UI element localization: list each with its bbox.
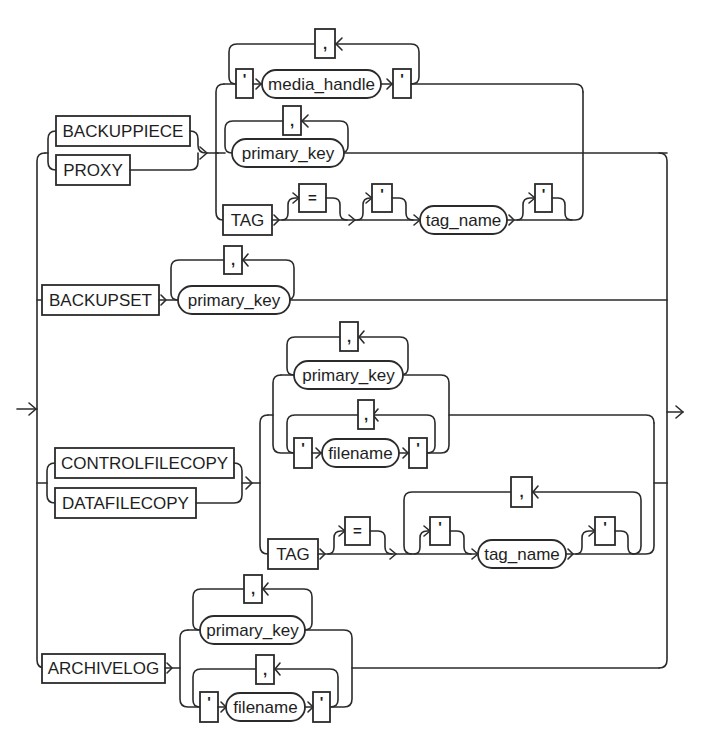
filename-label: filename — [233, 698, 297, 717]
comma-label: , — [323, 35, 327, 52]
optional-rail — [370, 531, 392, 554]
rail — [48, 153, 56, 170]
equals-label: = — [353, 522, 362, 539]
keyword-proxy-label: PROXY — [63, 161, 123, 180]
optional-rail — [517, 198, 535, 220]
tag-name-label: tag_name — [484, 545, 560, 564]
branch-backupset: BACKUPSET , primary_key — [37, 246, 667, 315]
left-rail — [37, 153, 45, 668]
optional-rail — [552, 198, 572, 220]
optional-rail — [414, 531, 430, 554]
rail — [411, 84, 583, 92]
quote-label: ' — [207, 693, 211, 710]
quote-label: ' — [542, 185, 546, 202]
rail — [45, 131, 56, 153]
rail — [180, 630, 200, 707]
optional-rail — [328, 531, 345, 554]
comma-label: , — [263, 661, 267, 678]
equals-label: = — [308, 189, 317, 206]
optional-rail — [326, 198, 347, 220]
rail — [47, 463, 55, 503]
quote-label: ' — [438, 518, 442, 535]
keyword-backupset-label: BACKUPSET — [49, 291, 152, 310]
syntax-diagram: BACKUPPIECE PROXY , ' media_handle ' , — [0, 0, 701, 736]
comma-label: , — [231, 251, 235, 268]
quote-label: ' — [416, 439, 420, 456]
optional-rail — [450, 531, 471, 554]
rail — [260, 415, 268, 554]
optional-rail — [357, 198, 372, 220]
tag-name-label: tag_name — [426, 211, 502, 230]
keyword-datafilecopy-label: DATAFILECOPY — [62, 494, 189, 513]
comma-label: , — [290, 112, 294, 129]
quote-label: ' — [603, 518, 607, 535]
comma-label: , — [347, 328, 351, 345]
rail — [130, 153, 198, 170]
rail — [273, 375, 294, 453]
branch-controlfilecopy-datafilecopy: CONTROLFILECOPY DATAFILECOPY , primary_k… — [37, 322, 667, 569]
optional-rail — [576, 531, 595, 554]
media-handle-label: media_handle — [268, 75, 375, 94]
branch-backuppiece-proxy: BACKUPPIECE PROXY , ' media_handle ' , — [45, 29, 667, 235]
primary-key-label: primary_key — [206, 621, 299, 640]
keyword-tag-label: TAG — [276, 545, 310, 564]
primary-key-label: primary_key — [302, 366, 395, 385]
main-rails — [17, 153, 683, 668]
rail — [449, 415, 654, 423]
optional-rail — [282, 198, 299, 220]
filename-label: filename — [328, 444, 392, 463]
branch-archivelog: ARCHIVELOG , primary_key , ' filename ' — [42, 575, 659, 722]
rail — [216, 84, 224, 220]
optional-rail — [392, 198, 413, 220]
keyword-archivelog-label: ARCHIVELOG — [48, 659, 159, 678]
quote-label: ' — [301, 439, 305, 456]
right-rail — [659, 153, 667, 668]
comma-label: , — [519, 483, 523, 500]
primary-key-label: primary_key — [242, 144, 335, 163]
quote-label: ' — [380, 185, 384, 202]
primary-key-label: primary_key — [188, 291, 281, 310]
comma-label: , — [251, 580, 255, 597]
keyword-tag-label: TAG — [231, 211, 265, 230]
keyword-backuppiece-label: BACKUPPIECE — [63, 122, 184, 141]
quote-label: ' — [400, 70, 404, 87]
optional-rail — [615, 531, 634, 554]
comma-label: , — [364, 406, 368, 423]
keyword-controlfilecopy-label: CONTROLFILECOPY — [61, 454, 228, 473]
quote-label: ' — [320, 693, 324, 710]
quote-label: ' — [243, 70, 247, 87]
